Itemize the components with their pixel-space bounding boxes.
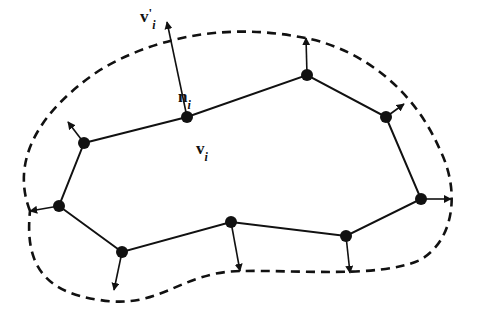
vertex-v8 xyxy=(116,246,128,258)
vertex-v5 xyxy=(415,193,427,205)
label-n-i: ni xyxy=(178,88,191,108)
normal-vectors xyxy=(30,22,451,290)
normal-arrow-v7 xyxy=(231,222,240,271)
label-v-prime-i: v'i xyxy=(140,8,155,28)
vertex-v4 xyxy=(380,111,392,123)
vertex-v7 xyxy=(225,216,237,228)
vertex-v2 xyxy=(181,111,193,123)
snake-contour-diagram: v'i ni vi xyxy=(0,0,483,322)
diagram-svg xyxy=(0,0,483,322)
vertex-v9 xyxy=(53,200,65,212)
vertex-v6 xyxy=(340,230,352,242)
snake-vertices xyxy=(53,69,427,258)
snake-polygon xyxy=(59,75,421,252)
vertex-v3 xyxy=(301,69,313,81)
vertex-v1 xyxy=(78,137,90,149)
label-v-i: vi xyxy=(196,140,208,160)
